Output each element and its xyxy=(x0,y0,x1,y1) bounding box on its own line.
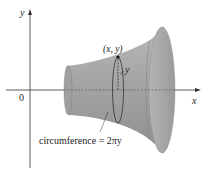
x-axis-label: x xyxy=(191,95,197,106)
y-axis xyxy=(28,9,32,168)
surface-of-revolution-diagram: y x 0 (x, y) y circumference = 2πy xyxy=(0,0,204,174)
point-marker xyxy=(116,55,119,58)
origin-label: 0 xyxy=(19,92,24,103)
point-label: (x, y) xyxy=(103,44,123,55)
x-axis-arrow-icon xyxy=(195,88,201,92)
y-axis-arrow-icon xyxy=(28,9,32,15)
y-axis-label: y xyxy=(19,7,25,18)
radius-label: y xyxy=(124,64,130,75)
circumference-label: circumference = 2πy xyxy=(39,135,122,146)
